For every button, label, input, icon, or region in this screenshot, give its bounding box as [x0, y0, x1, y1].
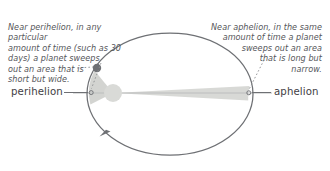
annotation-perihelion: Near perihelion, in any particular amoun…	[8, 22, 130, 84]
label-aphelion: aphelion	[274, 86, 319, 97]
kepler-second-law-figure: Near perihelion, in any particular amoun…	[0, 0, 330, 171]
label-perihelion: perihelion	[11, 86, 63, 97]
sun-icon	[104, 84, 122, 102]
annotation-aphelion: Near aphelion, in the same amount of tim…	[196, 22, 322, 74]
